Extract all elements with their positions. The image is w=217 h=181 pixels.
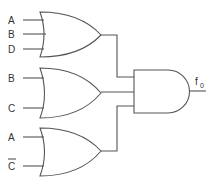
- input-label-a: A: [8, 132, 15, 143]
- or-gate-1: A B D: [8, 12, 101, 57]
- input-label-b: B: [8, 73, 15, 84]
- input-label-c-bar: C: [8, 161, 15, 172]
- and-gate: f 0: [134, 70, 206, 113]
- input-label-c: C: [8, 103, 15, 114]
- or-gate-3: A C: [8, 128, 101, 176]
- or-gate-2: B C: [8, 68, 101, 118]
- input-label-a: A: [8, 15, 15, 26]
- logic-circuit: A B D B C A C f 0: [0, 0, 217, 181]
- input-label-d: D: [8, 44, 15, 55]
- input-label-b: B: [8, 29, 15, 40]
- interconnect-wires: [101, 35, 134, 151]
- output-subscript: 0: [200, 82, 204, 89]
- output-label: f: [195, 76, 198, 87]
